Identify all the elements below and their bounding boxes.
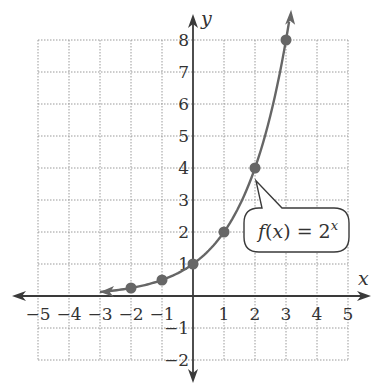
x-tick-label: −3 — [87, 304, 112, 324]
x-tick-label: −5 — [25, 304, 50, 324]
data-point — [281, 35, 292, 46]
y-tick-label: 8 — [178, 30, 189, 50]
function-label-exponent: x — [331, 218, 339, 233]
function-label-var: x — [272, 220, 283, 242]
x-axis-label: x — [358, 267, 369, 289]
y-tick-label: 2 — [178, 222, 189, 242]
y-tick-label: −2 — [164, 350, 189, 370]
x-tick-label: 2 — [250, 304, 261, 324]
x-tick-label: −4 — [56, 304, 81, 324]
x-tick-label: −2 — [118, 304, 143, 324]
y-tick-label: 5 — [178, 126, 189, 146]
data-point — [157, 275, 168, 286]
data-point — [188, 259, 199, 270]
y-tick-label: −1 — [164, 318, 189, 338]
y-tick-label: 7 — [178, 62, 189, 82]
function-callout: f(x) = 2x — [244, 181, 349, 252]
data-point — [126, 283, 137, 294]
exponential-function-graph: −5−4−3−2−112345−2−112345678 f(x) = 2x x … — [0, 0, 377, 388]
data-points — [126, 35, 292, 294]
x-tick-label: 1 — [219, 304, 230, 324]
x-tick-label: 4 — [312, 304, 323, 324]
data-point — [219, 227, 230, 238]
data-point — [250, 163, 261, 174]
function-label: f(x) = 2x — [256, 218, 339, 242]
y-tick-label: 3 — [178, 190, 189, 210]
y-axis-label: y — [200, 7, 212, 29]
function-label-mid: ) = 2 — [283, 220, 331, 242]
x-tick-label: 5 — [343, 304, 354, 324]
function-label-open: ( — [265, 220, 272, 242]
curve-group — [100, 10, 295, 297]
y-tick-label: 6 — [178, 94, 189, 114]
x-tick-label: 3 — [281, 304, 292, 324]
y-tick-label: 4 — [178, 158, 189, 178]
